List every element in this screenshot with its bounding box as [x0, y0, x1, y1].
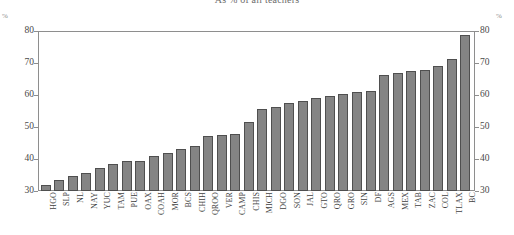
x-tick-label-tam: TAM [117, 192, 126, 209]
x-tick-label-mex: MEX [401, 192, 410, 210]
bar-dgo [271, 107, 281, 191]
x-tick-label-slp: SLP [62, 192, 71, 206]
x-tick-label-mor: MOR [171, 192, 180, 211]
x-tick-label-ver: VER [225, 192, 234, 208]
x-tick-label-bcs: BCS [184, 192, 193, 207]
bar-nl [68, 176, 78, 191]
bar-chart: As % of all teachers % % 808070706060505… [0, 0, 514, 235]
y-tick-mark-l-80 [34, 31, 38, 32]
y-tick-label-l-80: 80 [16, 26, 34, 36]
x-tick-label-jal: JAL [306, 192, 315, 206]
bar-series [39, 32, 474, 191]
bar-jal [298, 101, 308, 191]
bar-chih [190, 146, 200, 191]
bar-chis [244, 122, 254, 191]
x-tick-label-bc: BC [468, 192, 477, 203]
x-tick-label-coah: COAH [157, 192, 166, 215]
y-tick-mark-l-70 [34, 63, 38, 64]
bar-col [433, 66, 443, 191]
y-tick-label-l-30: 30 [16, 186, 34, 196]
y-tick-label-r-70: 70 [480, 58, 500, 68]
x-tick-label-pue: PUE [130, 192, 139, 207]
bar-qroo [203, 136, 213, 191]
bar-coah [149, 156, 159, 191]
bar-df [366, 91, 376, 191]
y-tick-mark-l-60 [34, 95, 38, 96]
y-tick-label-r-60: 60 [480, 90, 500, 100]
bar-slp [54, 180, 64, 191]
bar-tab [406, 71, 416, 191]
x-tick-label-qro: QRO [333, 192, 342, 209]
bar-gro [338, 94, 348, 191]
bar-hgo [41, 185, 51, 191]
y-tick-mark-r-50 [475, 127, 479, 128]
bar-tlax [447, 59, 457, 191]
y-tick-label-l-40: 40 [16, 154, 34, 164]
y-tick-label-r-30: 30 [480, 186, 500, 196]
y-tick-label-r-40: 40 [480, 154, 500, 164]
bar-yuc [95, 168, 105, 191]
bar-bc [460, 35, 470, 191]
x-tick-label-gro: GRO [347, 192, 356, 209]
bar-ver [217, 135, 227, 191]
y-tick-label-r-80: 80 [480, 26, 500, 36]
x-tick-label-yuc: YUC [103, 192, 112, 209]
x-tick-label-dgo: DGO [279, 192, 288, 210]
y-tick-label-r-50: 50 [480, 122, 500, 132]
bar-mex [393, 73, 403, 191]
y-tick-mark-l-50 [34, 127, 38, 128]
y-tick-mark-r-70 [475, 63, 479, 64]
x-tick-label-son: SON [293, 192, 302, 208]
bar-pue [122, 161, 132, 191]
x-axis-labels: HGOSLPNLNAYYUCTAMPUEOAXCOAHMORBCSCHIHQRO… [39, 192, 474, 235]
bar-ags [379, 75, 389, 191]
y-tick-label-l-50: 50 [16, 122, 34, 132]
bar-gto [311, 98, 321, 191]
y-tick-label-l-60: 60 [16, 90, 34, 100]
bar-son [284, 103, 294, 191]
y-tick-mark-r-40 [475, 159, 479, 160]
bar-nay [81, 173, 91, 191]
y-tick-mark-r-60 [475, 95, 479, 96]
x-tick-label-camp: CAMP [238, 192, 247, 215]
x-tick-label-df: DF [374, 192, 383, 202]
bar-camp [230, 134, 240, 191]
bar-sin [352, 92, 362, 191]
x-tick-label-ags: AGS [387, 192, 396, 208]
bar-qro [325, 96, 335, 191]
bar-zac [420, 70, 430, 191]
x-tick-label-nl: NL [76, 192, 85, 203]
x-tick-label-tlax: TLAX [455, 192, 464, 214]
y-tick-label-l-70: 70 [16, 58, 34, 68]
bar-mor [163, 153, 173, 191]
x-tick-label-qroo: QROO [211, 192, 220, 215]
x-tick-label-zac: ZAC [428, 192, 437, 208]
x-tick-label-gto: GTO [320, 192, 329, 209]
x-tick-label-nay: NAY [90, 192, 99, 209]
x-tick-label-chih: CHIH [198, 192, 207, 212]
bar-bcs [176, 149, 186, 191]
bar-mich [257, 109, 267, 191]
x-tick-label-sin: SIN [360, 192, 369, 205]
x-tick-label-chis: CHIS [252, 192, 261, 211]
y-tick-mark-l-30 [34, 191, 38, 192]
bar-tam [108, 164, 118, 191]
y-tick-mark-l-40 [34, 159, 38, 160]
x-tick-label-hgo: HGO [49, 192, 58, 210]
y-tick-mark-r-80 [475, 31, 479, 32]
x-tick-label-col: COL [441, 192, 450, 208]
x-tick-label-mich: MICH [265, 192, 274, 213]
x-tick-label-tab: TAB [414, 192, 423, 208]
bar-oax [135, 161, 145, 191]
x-tick-label-oax: OAX [144, 192, 153, 210]
